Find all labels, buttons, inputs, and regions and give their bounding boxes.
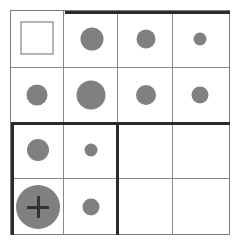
figure-root xyxy=(0,0,240,245)
circle-mark-r4c2 xyxy=(83,199,100,216)
circle-mark-r1c3 xyxy=(137,30,156,49)
circle-mark-r3c1 xyxy=(27,139,49,161)
circle-mark-r1c2 xyxy=(81,28,104,51)
emphasis-stroke-top-cols-2-4 xyxy=(65,11,230,14)
cell-r3c4[interactable] xyxy=(173,124,229,178)
square-outline-mark-r1c1 xyxy=(21,22,54,55)
circle-mark-r2c2 xyxy=(77,81,106,110)
cell-r3c3[interactable] xyxy=(118,124,172,178)
circle-mark-r2c4 xyxy=(192,87,209,104)
circle-mark-r1c4 xyxy=(194,33,207,46)
circle-mark-r2c1 xyxy=(27,85,48,106)
emphasis-stroke-left-rows-3-4 xyxy=(11,122,14,235)
circle-mark-r2c3 xyxy=(136,85,156,105)
circle-mark-r4c1 xyxy=(16,185,60,229)
emphasis-stroke-mid-full-width xyxy=(11,122,230,125)
cell-r4c3[interactable] xyxy=(118,179,172,234)
emphasis-stroke-col2-rows-3-4 xyxy=(116,122,119,235)
circle-mark-r3c2 xyxy=(85,144,98,157)
cell-r4c4[interactable] xyxy=(173,179,229,234)
